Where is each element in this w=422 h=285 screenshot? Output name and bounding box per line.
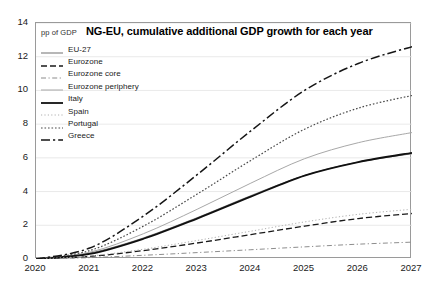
x-tick-label: 2022 xyxy=(132,262,153,273)
legend-item-eurozone-core[interactable]: Eurozone core xyxy=(41,68,139,80)
y-tick-label: 12 xyxy=(17,51,28,61)
legend-swatch-icon xyxy=(41,57,63,67)
series-line-italy xyxy=(36,153,412,259)
x-tick-label: 2023 xyxy=(186,262,207,273)
unit-label: pp of GDP xyxy=(41,28,77,37)
legend-swatch-icon xyxy=(41,119,63,129)
legend-swatch-icon xyxy=(41,106,63,116)
legend-swatch-icon xyxy=(41,69,63,79)
legend-swatch-icon xyxy=(41,44,63,54)
legend-item-eu-27[interactable]: EU-27 xyxy=(41,43,139,55)
legend-label: Eurozone xyxy=(68,57,103,66)
legend-item-eurozone-periphery[interactable]: Eurozone periphery xyxy=(41,80,139,92)
legend-item-eurozone[interactable]: Eurozone xyxy=(41,55,139,67)
x-tick-label: 2026 xyxy=(347,262,368,273)
y-tick-label: 2 xyxy=(23,219,28,229)
y-axis: 02468101214 xyxy=(0,22,32,258)
y-tick-label: 8 xyxy=(23,118,28,128)
x-tick-label: 2024 xyxy=(239,262,260,273)
y-tick-label: 6 xyxy=(23,152,28,162)
legend-label: Spain xyxy=(68,107,89,116)
y-tick-label: 10 xyxy=(17,84,28,94)
legend-swatch-icon xyxy=(41,81,63,91)
legend-item-italy[interactable]: Italy xyxy=(41,93,139,105)
legend-item-spain[interactable]: Spain xyxy=(41,105,139,117)
x-tick-label: 2025 xyxy=(293,262,314,273)
legend-label: Italy xyxy=(68,94,83,103)
x-axis: 20202021202220232024202520262027 xyxy=(35,260,411,280)
legend-swatch-icon xyxy=(41,131,63,141)
legend-label: Eurozone core xyxy=(68,69,121,78)
series-line-eu-27 xyxy=(36,154,412,259)
legend-label: Eurozone periphery xyxy=(68,82,139,91)
legend-item-greece[interactable]: Greece xyxy=(41,130,139,142)
x-tick-label: 2021 xyxy=(78,262,99,273)
legend-item-portugal[interactable]: Portugal xyxy=(41,117,139,129)
legend-label: Greece xyxy=(68,131,95,140)
legend-label: Portugal xyxy=(68,119,98,128)
chart-header: pp of GDP NG-EU, cumulative additional G… xyxy=(41,25,373,37)
legend-label: EU-27 xyxy=(68,45,91,54)
series-line-eurozone-periphery xyxy=(36,133,412,259)
chart-title: NG-EU, cumulative additional GDP growth … xyxy=(86,25,373,37)
chart-legend: EU-27EurozoneEurozone coreEurozone perip… xyxy=(41,43,139,142)
x-tick-label: 2020 xyxy=(24,262,45,273)
y-tick-label: 4 xyxy=(23,186,28,196)
y-tick-label: 14 xyxy=(17,17,28,27)
x-tick-label: 2027 xyxy=(400,262,421,273)
legend-swatch-icon xyxy=(41,94,63,104)
